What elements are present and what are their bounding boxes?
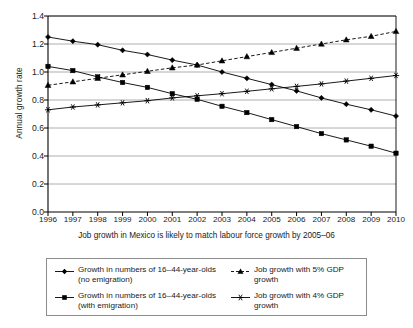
legend-item-0: Growth in numbers of 16–44-year-olds (no…: [54, 265, 229, 286]
x-axis-tick: 2002: [188, 215, 206, 224]
diamond-marker-icon: [54, 266, 76, 277]
y-axis-tick: 0.6: [32, 123, 44, 133]
legend-item-3: Job growth with 4% GDP growth: [230, 291, 365, 312]
legend-item-label: Growth in numbers of 16–44-year-olds (wi…: [76, 291, 216, 312]
y-axis-tick: 0.4: [32, 151, 44, 161]
x-axis-tick: 2004: [238, 215, 256, 224]
square-marker-icon: [54, 292, 76, 303]
x-axis-tick: 2005: [263, 215, 281, 224]
x-axis-tick: 2001: [163, 215, 181, 224]
y-axis-tick: 0.8: [32, 95, 44, 105]
x-axis-tick: 2007: [312, 215, 330, 224]
y-axis-tick: 1.4: [32, 11, 44, 21]
x-axis-tick: 2006: [288, 215, 306, 224]
x-axis-tick: 1996: [39, 215, 57, 224]
legend-item-label: Job growth with 5% GDP growth: [252, 265, 365, 286]
y-axis-tick: 1.0: [32, 67, 44, 77]
x-axis-tick: 2000: [138, 215, 156, 224]
x-axis-tick: 2008: [337, 215, 355, 224]
star-marker-icon: [230, 292, 252, 303]
x-axis-tick-labels: 1996199719981999200020012002200320042005…: [0, 215, 413, 229]
x-axis-tick: 1997: [64, 215, 82, 224]
x-axis-tick: 2010: [387, 215, 405, 224]
y-axis-tick: 1.2: [32, 39, 44, 49]
legend-item-label: Growth in numbers of 16–44-year-olds (no…: [76, 265, 216, 286]
chart-caption: Job growth in Mexico is likely to match …: [0, 231, 413, 240]
y-axis-tick: 0.2: [32, 179, 44, 189]
x-axis-tick: 1999: [114, 215, 132, 224]
x-axis-tick: 1998: [89, 215, 107, 224]
legend-item-1: Job growth with 5% GDP growth: [230, 265, 365, 286]
x-axis-tick: 2009: [362, 215, 380, 224]
triangle-marker-icon: [230, 266, 252, 277]
chart-figure: Annual growth rate 0.00.20.40.60.81.01.2…: [0, 0, 413, 328]
y-axis-tick-labels: 0.00.20.40.60.81.01.21.4: [12, 0, 44, 328]
x-axis-tick: 2003: [213, 215, 231, 224]
legend: Growth in numbers of 16–44-year-olds (no…: [46, 258, 367, 316]
legend-item-2: Growth in numbers of 16–44-year-olds (wi…: [54, 291, 229, 312]
legend-item-label: Job growth with 4% GDP growth: [252, 291, 365, 312]
